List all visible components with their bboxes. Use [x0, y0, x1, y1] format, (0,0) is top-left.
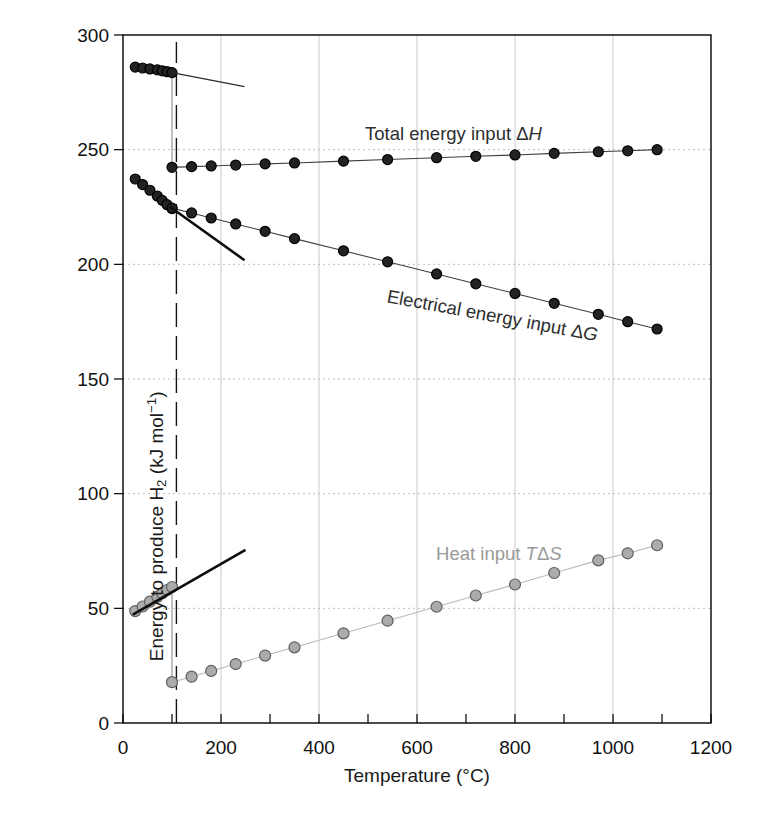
y-axis-title-part: −1: [144, 398, 159, 413]
data-point-dh-steam: [652, 145, 662, 155]
y-tick-label: 250: [77, 139, 109, 160]
x-tick-label: 400: [303, 737, 335, 758]
data-point-dg-steam: [549, 298, 559, 308]
data-point-dg-steam: [383, 257, 393, 267]
series-line-dh-steam: [172, 150, 657, 168]
y-axis-title-part: (kJ mol: [146, 413, 167, 480]
data-point-dg-steam: [510, 288, 520, 298]
x-tick-label: 1000: [592, 737, 634, 758]
data-point-tds-steam: [186, 671, 197, 682]
curve-label-dg: Electrical energy input ΔG: [385, 285, 599, 345]
data-point-dh-steam: [549, 148, 559, 158]
data-point-dh-steam: [432, 153, 442, 163]
data-point-dg-steam: [187, 208, 197, 218]
data-point-tds-steam: [652, 540, 663, 551]
data-point-tds-steam: [230, 659, 241, 670]
data-point-dg-steam: [471, 279, 481, 289]
data-point-dh-steam: [339, 156, 349, 166]
y-axis-title-part: ): [146, 391, 167, 397]
y-tick-label: 100: [77, 483, 109, 504]
data-point-tds-steam: [206, 665, 217, 676]
extrapolation-line-0: [172, 73, 245, 87]
y-tick-label: 0: [98, 713, 109, 734]
data-point-tds-steam: [260, 650, 271, 661]
data-point-tds-steam: [289, 642, 300, 653]
y-tick-label: 200: [77, 254, 109, 275]
data-point-dh-steam: [187, 162, 197, 172]
x-tick-label: 0: [118, 737, 129, 758]
data-point-dg-steam: [652, 324, 662, 334]
data-point-tds-steam: [382, 615, 393, 626]
data-point-tds-steam: [470, 590, 481, 601]
x-tick-label: 1200: [690, 737, 732, 758]
data-point-dh-steam: [471, 151, 481, 161]
data-point-dg-steam: [623, 317, 633, 327]
data-point-dg-steam: [432, 269, 442, 279]
data-point-dh-steam: [383, 155, 393, 165]
data-point-dg-steam: [593, 309, 603, 319]
curve-label-tds: Heat input TΔS: [436, 543, 562, 564]
x-tick-label: 600: [401, 737, 433, 758]
data-point-tds-steam: [549, 568, 560, 579]
y-axis-title-part: Energy to produce H: [146, 487, 167, 661]
data-point-tds-steam: [431, 601, 442, 612]
data-point-dh-steam: [623, 146, 633, 156]
data-point-dh-steam: [593, 147, 603, 157]
x-tick-label: 200: [205, 737, 237, 758]
data-point-tds-steam: [338, 628, 349, 639]
data-point-dh-steam: [510, 150, 520, 160]
data-point-dh-steam: [206, 161, 216, 171]
electrolysis-energy-chart: Temperature (°C) 02004006008001000120005…: [0, 0, 765, 820]
y-axis-title-part: 2: [154, 479, 169, 486]
data-point-dg-steam: [206, 213, 216, 223]
data-point-dh-steam: [231, 160, 241, 170]
y-axis-title: Energy to produce H2 (kJ mol−1): [144, 391, 169, 661]
data-point-tds-steam: [593, 555, 604, 566]
data-point-dg-steam: [260, 226, 270, 236]
data-point-tds-steam: [510, 579, 521, 590]
data-point-dg-steam: [231, 219, 241, 229]
data-point-dh-steam: [260, 159, 270, 169]
data-point-dh-steam: [290, 158, 300, 168]
y-tick-label: 50: [88, 598, 109, 619]
y-tick-label: 150: [77, 369, 109, 390]
x-axis-title: Temperature (°C): [344, 765, 490, 786]
data-point-dg-steam: [339, 246, 349, 256]
x-tick-label: 800: [499, 737, 531, 758]
data-point-tds-steam: [622, 548, 633, 559]
series-line-tds-steam: [172, 545, 657, 682]
y-tick-label: 300: [77, 25, 109, 46]
curve-label-dh: Total energy input ΔH: [365, 123, 543, 144]
data-point-dg-steam: [290, 234, 300, 244]
data-point-tds-steam: [167, 677, 178, 688]
data-point-dh-steam: [167, 162, 177, 172]
